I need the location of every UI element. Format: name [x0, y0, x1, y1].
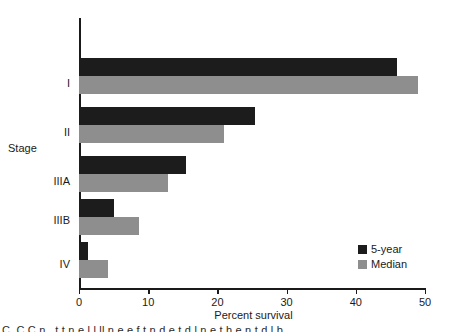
- x-tick-label-10: 10: [133, 296, 163, 308]
- bar-5-year-IIIB: [79, 199, 114, 217]
- y-axis-tick-labels: I II IIIA IIIB IV: [0, 0, 74, 332]
- x-tick-label-50: 50: [410, 296, 440, 308]
- bar-median-IIIA: [79, 174, 168, 192]
- legend-label-median: Median: [371, 258, 407, 270]
- y-tick-label-IIIA: IIIA: [53, 175, 70, 187]
- x-tick-mark-10: [148, 289, 149, 294]
- y-tick-label-I: I: [67, 77, 70, 89]
- x-axis-spine: [79, 288, 426, 290]
- bar-5-year-II: [79, 107, 255, 125]
- x-tick-label-20: 20: [202, 296, 232, 308]
- bar-median-I: [79, 76, 418, 94]
- y-tick-label-IV: IV: [60, 258, 70, 270]
- legend-label-5-year: 5-year: [371, 243, 402, 255]
- bar-5-year-I: [79, 58, 397, 76]
- x-axis-title: Percent survival: [0, 309, 451, 321]
- x-tick-mark-40: [356, 289, 357, 294]
- x-tick-mark-0: [79, 289, 80, 294]
- y-tick-label-IIIB: IIIB: [53, 214, 70, 226]
- x-tick-mark-30: [287, 289, 288, 294]
- bar-median-IIIB: [79, 217, 139, 235]
- legend-swatch-5-year-icon: [358, 245, 367, 254]
- x-tick-mark-50: [425, 289, 426, 294]
- legend-swatch-median-icon: [358, 260, 367, 269]
- x-tick-label-0: 0: [64, 296, 94, 308]
- bar-5-year-IIIA: [79, 156, 186, 174]
- y-tick-label-II: II: [64, 126, 70, 138]
- chart-legend: 5-year Median: [358, 242, 407, 272]
- x-tick-mark-20: [217, 289, 218, 294]
- legend-item-5-year: 5-year: [358, 242, 407, 256]
- legend-item-median: Median: [358, 257, 407, 271]
- x-tick-label-30: 30: [272, 296, 302, 308]
- bar-5-year-IV: [79, 242, 88, 260]
- x-axis-title-text: Percent survival: [214, 309, 292, 321]
- figure-caption: C_C C n . t t n e l l ll n e e f t n d e…: [2, 324, 451, 332]
- x-tick-label-40: 40: [341, 296, 371, 308]
- chart-figure: Stage I II IIIA IIIB IV 0102: [0, 0, 451, 332]
- bar-median-IV: [79, 260, 108, 278]
- bar-median-II: [79, 125, 224, 143]
